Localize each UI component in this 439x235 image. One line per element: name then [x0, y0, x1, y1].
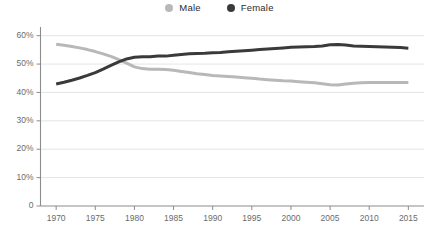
- x-tick-label: 1990: [203, 213, 222, 223]
- x-tick-label: 1975: [86, 213, 105, 223]
- y-tick-label: 20%: [16, 143, 33, 153]
- x-tick-label: 1985: [164, 213, 183, 223]
- y-tick-label: 10%: [16, 172, 33, 182]
- gridlines: [41, 36, 425, 178]
- x-tick-label: 2015: [399, 213, 418, 223]
- x-tick-label: 1970: [47, 213, 66, 223]
- y-tick-label: 60%: [16, 30, 33, 40]
- x-tick-label: 1995: [242, 213, 261, 223]
- y-tick-label: 40%: [16, 87, 33, 97]
- y-tick-label: 0: [29, 200, 34, 210]
- x-tick-label: 1980: [125, 213, 144, 223]
- y-tick-label: 30%: [16, 115, 33, 125]
- chart-plot-area: 010%20%30%40%50%60% 19701975198019851990…: [0, 0, 439, 235]
- x-tick-label: 2010: [360, 213, 379, 223]
- y-axis-tick-labels: 010%20%30%40%50%60%: [16, 30, 40, 210]
- y-tick-label: 50%: [16, 58, 33, 68]
- x-axis-tick-labels: 1970197519801985199019952000200520102015: [47, 206, 418, 223]
- x-tick-label: 2005: [321, 213, 340, 223]
- data-series: [56, 44, 408, 85]
- line-chart: Male Female 010%20%30%40%50%60% 19701975…: [0, 0, 439, 235]
- x-tick-label: 2000: [281, 213, 300, 223]
